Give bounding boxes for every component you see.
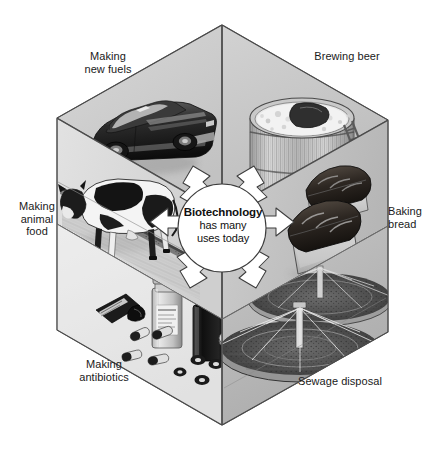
figure-container: Biotechnology has many uses today Making… [0,0,447,450]
center-circle [178,184,266,272]
biotechnology-hexagon-diagram [0,0,447,450]
vat-skimmer [290,103,329,128]
sewage-center-column-near [296,306,303,348]
